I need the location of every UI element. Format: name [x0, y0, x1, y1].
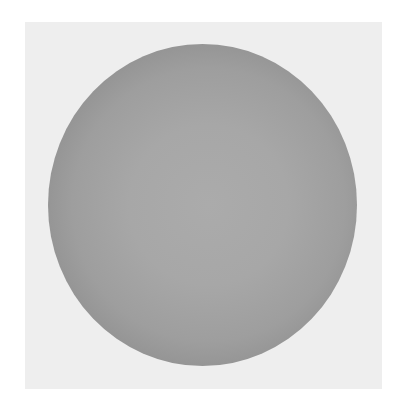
image-canvas — [0, 0, 399, 402]
gray-sphere — [48, 44, 357, 366]
